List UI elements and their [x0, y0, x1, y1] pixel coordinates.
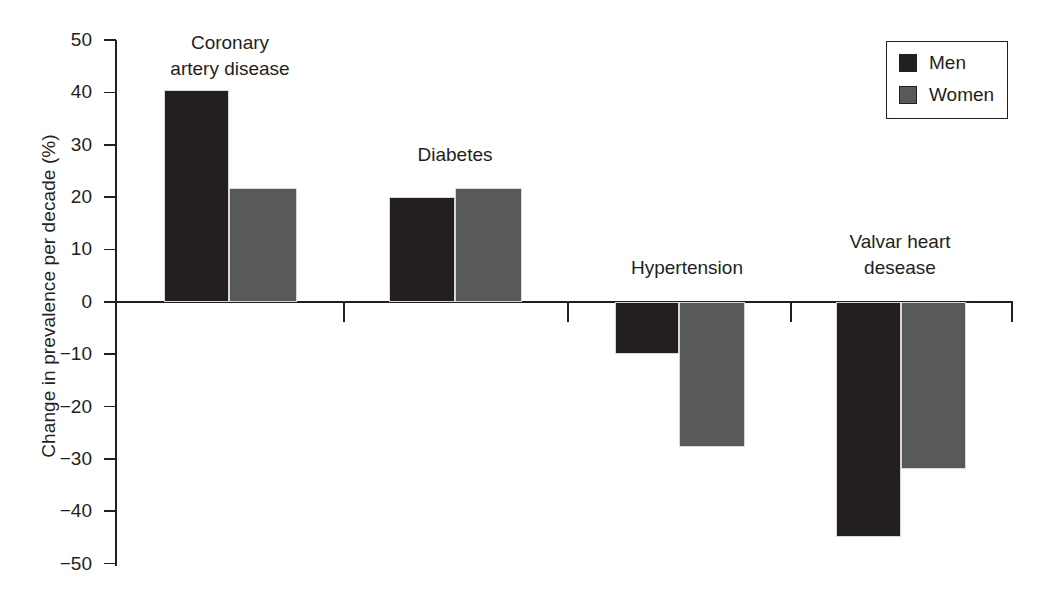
x-tick-mark: [790, 301, 792, 322]
y-tick-label: 40: [36, 82, 92, 102]
y-tick-label-text: −20: [36, 397, 92, 416]
bar-hypertension-women: [679, 302, 745, 447]
x-tick-mark: [567, 301, 569, 322]
y-tick-label-text: 50: [36, 30, 92, 49]
bar-valvar-heart-desease-women: [901, 302, 966, 470]
y-tick-label: 0: [36, 292, 92, 312]
y-tick-label: −20: [36, 397, 92, 417]
bar-coronary-artery-disease-men: [164, 90, 229, 302]
y-tick-label-text: 30: [36, 135, 92, 154]
bar-hypertension-men: [615, 302, 679, 354]
legend-label-women: Women: [929, 85, 994, 104]
x-axis-end-tick: [1011, 301, 1013, 322]
y-tick-label: −50: [36, 554, 92, 574]
legend-item-men: Men: [899, 53, 966, 72]
legend-label-men: Men: [929, 53, 966, 72]
y-tick-label: −40: [36, 501, 92, 521]
y-tick-label: 10: [36, 239, 92, 259]
bar-diabetes-women: [455, 188, 522, 302]
group-label-hypertension: Hypertension: [602, 255, 772, 281]
y-tick-label-text: 20: [36, 187, 92, 206]
y-tick-mark: [104, 301, 116, 303]
y-tick-mark: [104, 249, 116, 251]
legend-swatch-men-icon: [899, 54, 917, 72]
y-tick-mark: [104, 563, 116, 565]
y-tick-mark: [104, 92, 116, 94]
bar-valvar-heart-desease-men: [836, 302, 901, 538]
legend-item-women: Women: [899, 85, 994, 104]
y-tick-label-text: 0: [36, 292, 92, 311]
y-tick-mark: [104, 196, 116, 198]
bar-diabetes-men: [389, 197, 455, 302]
y-tick-mark: [104, 458, 116, 460]
y-tick-mark: [104, 353, 116, 355]
y-tick-mark: [104, 144, 116, 146]
x-tick-mark: [343, 301, 345, 322]
y-tick-label-text: 40: [36, 82, 92, 101]
legend: Men Women: [886, 41, 1008, 119]
group-label-coronary-artery-disease: Coronary artery disease: [150, 30, 310, 82]
y-tick-mark: [104, 39, 116, 41]
y-tick-label-text: −40: [36, 501, 92, 520]
group-label-diabetes: Diabetes: [380, 142, 530, 168]
y-tick-label-text: 10: [36, 239, 92, 258]
y-tick-label: 50: [36, 30, 92, 50]
y-tick-label: −10: [36, 344, 92, 364]
group-label-valvar-heart-desease: Valvar heart desease: [820, 229, 980, 281]
y-tick-mark: [104, 406, 116, 408]
y-tick-label-text: −10: [36, 344, 92, 363]
y-tick-label: 30: [36, 135, 92, 155]
y-tick-label: 20: [36, 187, 92, 207]
bar-chart: Change in prevalence per decade (%) 5040…: [0, 0, 1041, 601]
y-tick-mark: [104, 510, 116, 512]
legend-swatch-women-icon: [899, 86, 917, 104]
y-tick-label-text: −50: [36, 554, 92, 573]
y-tick-label: −30: [36, 449, 92, 469]
bar-coronary-artery-disease-women: [229, 188, 297, 302]
y-tick-label-text: −30: [36, 449, 92, 468]
y-axis-line: [115, 40, 117, 566]
